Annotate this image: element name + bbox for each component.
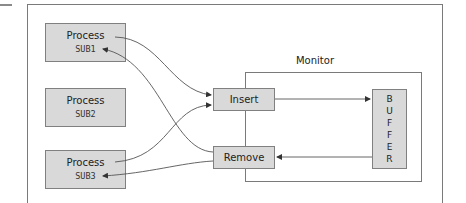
connector-arrows <box>0 0 466 203</box>
